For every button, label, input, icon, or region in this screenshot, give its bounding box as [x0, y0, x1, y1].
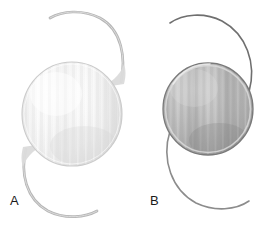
panel-label-a: A — [10, 194, 19, 207]
figure-root: A B — [0, 0, 276, 228]
panel-label-b: B — [150, 194, 159, 207]
iol-comparison-illustration — [0, 0, 276, 228]
